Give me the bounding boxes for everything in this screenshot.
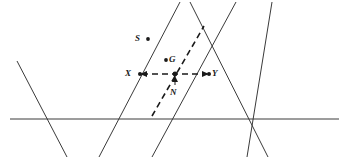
- mid-ascending-line: [152, 2, 236, 157]
- point-label-X: X: [125, 69, 131, 78]
- point-dot-Y: [207, 72, 211, 76]
- diagonal-dashed-line: [152, 26, 204, 116]
- figure-canvas: [0, 0, 349, 159]
- point-dot-G: [164, 58, 168, 62]
- point-dot-S: [146, 37, 150, 41]
- right-ascending-line: [247, 2, 272, 157]
- point-dot-X: [138, 72, 142, 76]
- dashed-lines-group: [142, 26, 207, 116]
- left-descending-line: [17, 61, 67, 157]
- point-label-N: N: [170, 88, 177, 97]
- mid-descending-line: [190, 2, 268, 157]
- point-label-Y: Y: [212, 69, 218, 78]
- point-label-G: G: [169, 55, 176, 64]
- point-dot-center: [173, 72, 178, 77]
- point-label-S: S: [135, 34, 140, 43]
- left-ascending-line: [99, 2, 180, 157]
- geometry-figure: S G X Y N: [0, 0, 349, 159]
